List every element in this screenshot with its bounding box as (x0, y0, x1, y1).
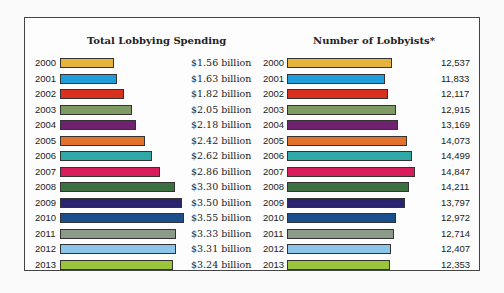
bar (60, 74, 117, 84)
year-label: 2003 (35, 103, 56, 117)
value-label: $3.50 billion (191, 196, 251, 210)
value-label: 12,117 (441, 87, 469, 101)
year-label: 2007 (35, 165, 56, 179)
value-label: 14,211 (441, 180, 469, 194)
value-label: $2.62 billion (191, 149, 251, 163)
bar (287, 244, 391, 254)
value-label: 12,972 (441, 211, 470, 225)
bar-row: 201212,407 (253, 242, 481, 256)
bar (287, 229, 394, 239)
value-label: $2.18 billion (191, 118, 251, 132)
year-label: 2010 (263, 211, 284, 225)
bar-row: 200312,915 (253, 103, 481, 117)
chart-title: Total Lobbying Spending (87, 35, 226, 46)
bar (287, 182, 409, 192)
bar-row: 200413,169 (253, 118, 481, 132)
bar-row: 200111,833 (253, 72, 481, 86)
year-label: 2007 (263, 165, 284, 179)
value-label: 14,499 (441, 149, 470, 163)
bar-row: 2003$2.05 billion (25, 103, 253, 117)
year-label: 2005 (35, 134, 56, 148)
bar-row: 2005$2.42 billion (25, 134, 253, 148)
bar (287, 151, 412, 161)
year-label: 2004 (263, 118, 284, 132)
value-label: $2.05 billion (191, 103, 251, 117)
bar (60, 229, 176, 239)
year-label: 2009 (263, 196, 284, 210)
year-label: 2006 (263, 149, 284, 163)
bar (60, 167, 160, 177)
value-label: 12,407 (441, 242, 470, 256)
value-label: $1.56 billion (191, 56, 251, 70)
bar-row: 2009$3.50 billion (25, 196, 253, 210)
value-label: 11,833 (441, 72, 469, 86)
bar-row: 200814,211 (253, 180, 481, 194)
value-label: 13,169 (441, 118, 470, 132)
year-label: 2011 (35, 227, 55, 241)
bar (287, 58, 392, 68)
value-label: $2.42 billion (191, 134, 251, 148)
bar-row: 201012,972 (253, 211, 481, 225)
bar-row: 2007$2.86 billion (25, 165, 253, 179)
bar-row: 200614,499 (253, 149, 481, 163)
year-label: 2012 (263, 242, 284, 256)
value-label: $1.82 billion (191, 87, 251, 101)
bar (60, 213, 184, 223)
value-label: 13,797 (441, 196, 470, 210)
bar-row: 2010$3.55 billion (25, 211, 253, 225)
bar-row: 200913,797 (253, 196, 481, 210)
bar (287, 167, 415, 177)
value-label: $3.33 billion (191, 227, 251, 241)
value-label: $2.86 billion (191, 165, 251, 179)
year-label: 2009 (35, 196, 56, 210)
bar-row: 2008$3.30 billion (25, 180, 253, 194)
bar-row: 2012$3.31 billion (25, 242, 253, 256)
year-label: 2004 (35, 118, 56, 132)
year-label: 2012 (35, 242, 56, 256)
value-label: 12,353 (441, 258, 470, 272)
bar (287, 213, 396, 223)
year-label: 2001 (35, 72, 56, 86)
value-label: $3.55 billion (191, 211, 251, 225)
year-label: 2002 (35, 87, 56, 101)
bar-row: 2002$1.82 billion (25, 87, 253, 101)
value-label: $3.31 billion (191, 242, 251, 256)
bar (287, 89, 388, 99)
year-label: 2001 (263, 72, 284, 86)
value-label: 14,073 (441, 134, 470, 148)
year-label: 2013 (263, 258, 284, 272)
year-label: 2010 (35, 211, 56, 225)
bar-row: 200012,537 (253, 56, 481, 70)
value-label: 12,915 (441, 103, 470, 117)
bar-row: 200714,847 (253, 165, 481, 179)
bar (60, 89, 124, 99)
value-label: 12,537 (441, 56, 470, 70)
bar (287, 198, 405, 208)
bar (287, 260, 390, 270)
bar (60, 105, 132, 115)
value-label: 14,847 (441, 165, 470, 179)
chart-title: Number of Lobbyists* (313, 35, 435, 46)
bar-row: 2013$3.24 billion (25, 258, 253, 272)
value-label: $3.30 billion (191, 180, 251, 194)
bar (287, 74, 385, 84)
bar-row: 2006$2.62 billion (25, 149, 253, 163)
bar (60, 136, 145, 146)
year-label: 2003 (263, 103, 284, 117)
value-label: $3.24 billion (191, 258, 251, 272)
year-label: 2000 (263, 56, 284, 70)
bar-row: 201312,353 (253, 258, 481, 272)
bar (60, 120, 136, 130)
bar (60, 244, 176, 254)
bar-row: 2001$1.63 billion (25, 72, 253, 86)
year-label: 2005 (263, 134, 284, 148)
year-label: 2013 (35, 258, 56, 272)
bar (287, 105, 396, 115)
bar-row: 2011$3.33 billion (25, 227, 253, 241)
bar-row: 2004$2.18 billion (25, 118, 253, 132)
value-label: 12,714 (441, 227, 470, 241)
bar (60, 182, 175, 192)
year-label: 2002 (263, 87, 284, 101)
bar (60, 198, 182, 208)
bar (60, 260, 173, 270)
